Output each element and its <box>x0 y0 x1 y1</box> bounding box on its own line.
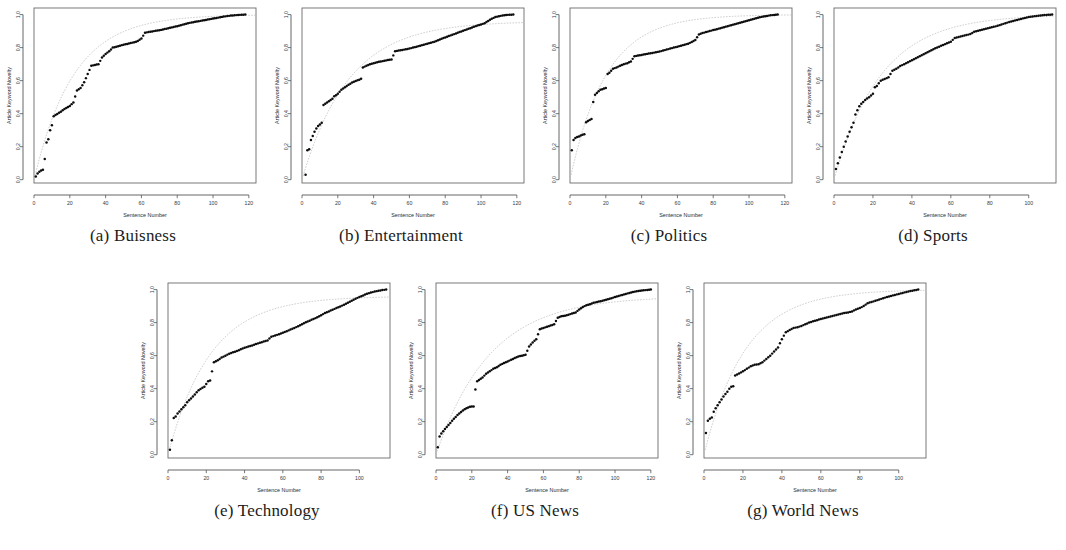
data-point <box>714 407 717 410</box>
data-point <box>186 401 189 404</box>
y-tick-label: 0.0 <box>417 451 423 458</box>
data-point <box>860 103 863 106</box>
data-point <box>1051 13 1054 16</box>
data-point-group <box>705 288 920 434</box>
data-point-group <box>169 288 388 451</box>
x-tick-label: 80 <box>987 200 993 206</box>
x-tick-label: 0 <box>569 200 572 206</box>
data-point <box>776 13 779 16</box>
data-point <box>304 174 307 177</box>
data-point <box>841 151 844 154</box>
data-point <box>720 398 723 401</box>
data-point <box>846 135 849 138</box>
data-point <box>535 338 538 341</box>
fit-curve <box>35 15 256 175</box>
data-point <box>864 303 866 305</box>
data-point <box>43 158 46 161</box>
data-point <box>590 118 593 121</box>
panel-caption-politics: (c) Politics <box>536 226 802 246</box>
y-tick-label: 0.4 <box>815 110 821 117</box>
data-point <box>444 428 447 431</box>
x-axis-title: Sentence Number <box>257 487 301 493</box>
y-tick-label: 1.0 <box>815 11 821 18</box>
data-point <box>360 77 363 80</box>
x-tick-label: 0 <box>703 475 706 481</box>
data-point <box>70 103 72 105</box>
plot-entertainment: 020406080100120Sentence Number0.00.20.40… <box>268 0 534 225</box>
data-point <box>451 420 454 423</box>
x-tick-label: 60 <box>541 475 547 481</box>
y-tick-label: 0.0 <box>815 176 821 183</box>
x-tick-label: 120 <box>245 200 254 206</box>
data-point <box>610 70 612 72</box>
plot-politics: 020406080100120Sentence Number0.00.20.40… <box>536 0 802 225</box>
data-point <box>571 149 574 152</box>
data-point <box>390 58 393 61</box>
y-axis-title: Article Keyword Novelty <box>542 67 548 124</box>
y-tick-label: 0.8 <box>685 319 691 326</box>
x-tick-label: 0 <box>167 475 170 481</box>
y-tick-label: 0.8 <box>815 44 821 51</box>
panel-caption-sports: (d) Sports <box>800 226 1066 246</box>
data-point-group <box>35 13 247 177</box>
data-point <box>437 446 440 449</box>
y-tick-label: 0.2 <box>417 418 423 425</box>
y-tick-label: 1.0 <box>283 11 289 18</box>
y-tick-label: 0.8 <box>417 319 423 326</box>
x-tick-label: 40 <box>505 475 511 481</box>
data-point <box>211 370 213 372</box>
data-point <box>696 36 698 38</box>
data-point <box>868 96 871 99</box>
data-point <box>337 93 340 96</box>
panel-technology: 020406080100Sentence Number0.00.20.40.60… <box>134 275 400 550</box>
data-point <box>852 121 855 124</box>
data-point <box>51 124 54 127</box>
data-point <box>526 349 528 351</box>
data-point <box>779 342 781 344</box>
data-point <box>530 343 532 345</box>
data-point <box>630 60 633 63</box>
data-point <box>182 406 185 409</box>
data-point <box>835 168 838 171</box>
data-point <box>724 393 727 396</box>
data-point <box>449 422 452 425</box>
data-point <box>103 55 105 57</box>
data-point <box>777 346 780 349</box>
scatter-svg-c: 020406080100120Sentence Number0.00.20.40… <box>536 0 802 225</box>
x-tick-label: 20 <box>67 200 73 206</box>
data-point <box>864 99 867 102</box>
data-point <box>184 404 187 407</box>
data-point <box>83 81 86 84</box>
x-tick-label: 80 <box>576 475 582 481</box>
y-tick-label: 0.0 <box>149 451 155 458</box>
x-tick-label: 80 <box>442 200 448 206</box>
x-tick-label: 20 <box>469 475 475 481</box>
plot-technology: 020406080100Sentence Number0.00.20.40.60… <box>134 275 400 500</box>
y-tick-label: 0.0 <box>15 176 21 183</box>
data-point <box>338 91 340 93</box>
x-tick-label: 20 <box>603 200 609 206</box>
x-tick-label: 100 <box>611 475 620 481</box>
data-point <box>608 71 611 74</box>
y-axis-title: Article Keyword Novelty <box>408 342 414 399</box>
data-point <box>192 395 195 398</box>
data-point <box>783 334 785 336</box>
x-tick-label: 80 <box>174 200 180 206</box>
data-point <box>42 169 45 172</box>
data-point <box>442 430 445 433</box>
x-tick-label: 120 <box>781 200 790 206</box>
data-point <box>438 435 441 438</box>
data-point <box>190 397 193 400</box>
data-point <box>474 388 477 391</box>
data-point <box>848 131 851 134</box>
y-tick-label: 0.8 <box>15 44 21 51</box>
data-point <box>728 387 731 390</box>
data-point <box>592 101 595 104</box>
y-tick-label: 0.4 <box>417 385 423 392</box>
data-point <box>872 93 875 96</box>
x-tick-label: 80 <box>857 475 863 481</box>
data-point <box>454 416 457 419</box>
x-tick-label: 0 <box>435 475 438 481</box>
panel-world-news: 020406080100Sentence Number0.00.20.40.60… <box>670 275 936 550</box>
data-point <box>481 376 484 379</box>
